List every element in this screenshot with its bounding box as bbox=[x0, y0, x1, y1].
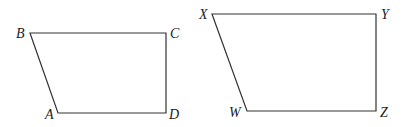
quadrilateral-wxyz bbox=[212, 14, 376, 111]
quadrilateral-abcd bbox=[30, 33, 166, 113]
vertex-label-d: D bbox=[168, 107, 179, 122]
diagram-canvas: B C D A X Y Z W bbox=[0, 0, 404, 127]
vertex-label-w: W bbox=[229, 105, 242, 120]
vertex-label-z: Z bbox=[380, 105, 388, 120]
vertex-label-b: B bbox=[16, 26, 25, 41]
vertex-label-a: A bbox=[44, 107, 54, 122]
vertex-label-y: Y bbox=[381, 7, 391, 22]
vertex-label-x: X bbox=[198, 7, 208, 22]
vertex-label-c: C bbox=[170, 26, 180, 41]
